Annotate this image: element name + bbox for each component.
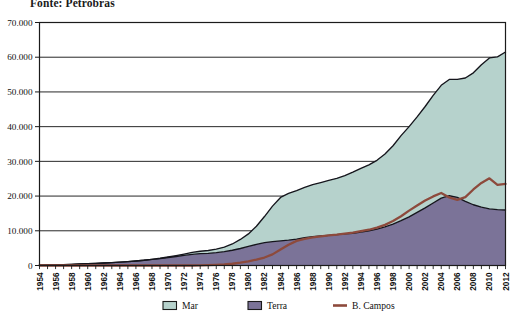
chart-legend: MarTerraB. Campos: [163, 300, 395, 311]
x-tick-label: 1998: [389, 272, 398, 291]
x-tick-label: 1986: [293, 272, 302, 291]
y-tick-label: 0: [28, 261, 33, 271]
x-tick-label: 2004: [437, 272, 446, 291]
x-tick-label: 1976: [212, 272, 221, 291]
y-tick-label: 70.000: [7, 18, 33, 28]
x-tick-label: 1982: [260, 272, 269, 291]
x-tick-label: 1972: [180, 272, 189, 291]
y-tick-label: 20.000: [7, 191, 33, 201]
x-tick-label: 1966: [132, 272, 141, 291]
legend-label: Terra: [267, 300, 288, 311]
x-tick-label: 1994: [357, 272, 366, 291]
y-axis: 010.00020.00030.00040.00050.00060.00070.…: [7, 18, 39, 271]
y-tick-label: 30.000: [7, 157, 33, 167]
x-tick-label: 1984: [277, 272, 286, 291]
x-tick-label: 1996: [373, 272, 382, 291]
legend-item-mar[interactable]: Mar: [163, 300, 199, 311]
x-tick-label: 1970: [164, 272, 173, 291]
x-tick-label: 2006: [453, 272, 462, 291]
x-tick-label: 1988: [309, 272, 318, 291]
production-area-chart: 010.00020.00030.00040.00050.00060.00070.…: [0, 0, 518, 320]
legend-swatch: [248, 302, 262, 310]
x-tick-label: 1956: [52, 272, 61, 291]
y-tick-label: 60.000: [7, 52, 33, 62]
x-tick-label: 1992: [341, 272, 350, 291]
legend-item-b-campos[interactable]: B. Campos: [333, 300, 395, 311]
x-tick-label: 1954: [36, 272, 45, 291]
x-tick-label: 2010: [485, 272, 494, 291]
x-tick-label: 1962: [100, 272, 109, 291]
legend-item-terra[interactable]: Terra: [248, 300, 288, 311]
x-axis: 1954195619581960196219641966196819701972…: [36, 266, 511, 291]
legend-label: B. Campos: [352, 300, 395, 311]
x-tick-label: 1980: [244, 272, 253, 291]
x-tick-label: 2012: [502, 272, 511, 291]
legend-label: Mar: [182, 300, 199, 311]
y-tick-label: 40.000: [7, 122, 33, 132]
x-tick-label: 1964: [116, 272, 125, 291]
legend-swatch: [163, 302, 177, 310]
x-tick-label: 2002: [421, 272, 430, 291]
x-tick-label: 1960: [84, 272, 93, 291]
x-tick-label: 2008: [469, 272, 478, 291]
x-tick-label: 1978: [228, 272, 237, 291]
x-tick-label: 1990: [325, 272, 334, 291]
x-tick-label: 1958: [68, 272, 77, 291]
x-tick-label: 2000: [405, 272, 414, 291]
y-tick-label: 10.000: [7, 226, 33, 236]
x-tick-label: 1974: [196, 272, 205, 291]
chart-canvas: 010.00020.00030.00040.00050.00060.00070.…: [0, 0, 518, 320]
y-tick-label: 50.000: [7, 87, 33, 97]
x-tick-label: 1968: [148, 272, 157, 291]
